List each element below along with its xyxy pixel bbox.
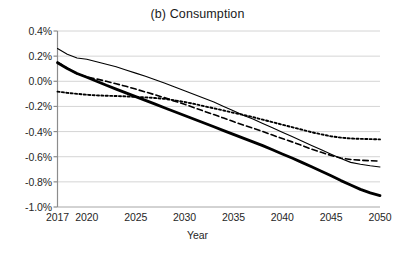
x-axis-tick-label: 2035 bbox=[213, 211, 253, 223]
series-line-dashed bbox=[58, 62, 381, 161]
y-axis-tick-label: -0.2% bbox=[8, 100, 52, 112]
consumption-line-chart: (b) Consumption 0.4%0.2%0.0%-0.2%-0.4%-0… bbox=[0, 0, 395, 259]
x-axis-tick-label: 2020 bbox=[67, 211, 107, 223]
y-axis-tick-label: 0.4% bbox=[8, 25, 52, 37]
x-axis-title: Year bbox=[0, 229, 395, 241]
x-axis-tick-label: 2030 bbox=[165, 211, 205, 223]
y-axis-tick-label: -0.4% bbox=[8, 126, 52, 138]
y-axis-tick-label: -0.8% bbox=[8, 176, 52, 188]
y-axis-tick-label: 0.2% bbox=[8, 50, 52, 62]
y-axis-tick-label: -0.6% bbox=[8, 151, 52, 163]
x-axis-tick-label: 2045 bbox=[311, 211, 351, 223]
series-line-thin-solid bbox=[58, 49, 381, 167]
series-line-dotted bbox=[58, 92, 381, 140]
x-axis-tick-label: 2025 bbox=[116, 211, 156, 223]
y-axis-tick-label: 0.0% bbox=[8, 75, 52, 87]
series-line-thick-solid bbox=[58, 63, 381, 196]
x-axis-tick-label: 2050 bbox=[360, 211, 395, 223]
x-axis-tick-label: 2040 bbox=[262, 211, 302, 223]
